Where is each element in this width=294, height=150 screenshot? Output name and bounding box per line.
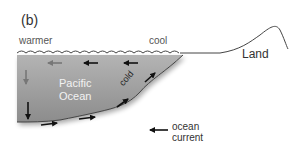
ocean-name-line1: Pacific: [59, 77, 91, 90]
current-arrow-bottom-middle: [79, 117, 95, 119]
cool-label: cool: [149, 36, 167, 46]
land-label: Land: [242, 48, 269, 60]
diagram-canvas: [0, 0, 294, 150]
sea-surface-waves: [17, 51, 179, 53]
legend-line2: current: [172, 132, 203, 143]
land-profile: [180, 26, 288, 53]
legend-label: ocean current: [172, 121, 203, 143]
ocean-name-label: Pacific Ocean: [59, 77, 91, 103]
ocean-circulation-diagram: (b) warmer cool Land Pacific Ocean cold …: [0, 0, 294, 150]
panel-label: (b): [21, 13, 38, 27]
legend-line1: ocean: [172, 121, 203, 132]
current-arrow-bottom-left: [41, 123, 57, 125]
warmer-label: warmer: [19, 36, 52, 46]
ocean-name-line2: Ocean: [59, 90, 91, 103]
